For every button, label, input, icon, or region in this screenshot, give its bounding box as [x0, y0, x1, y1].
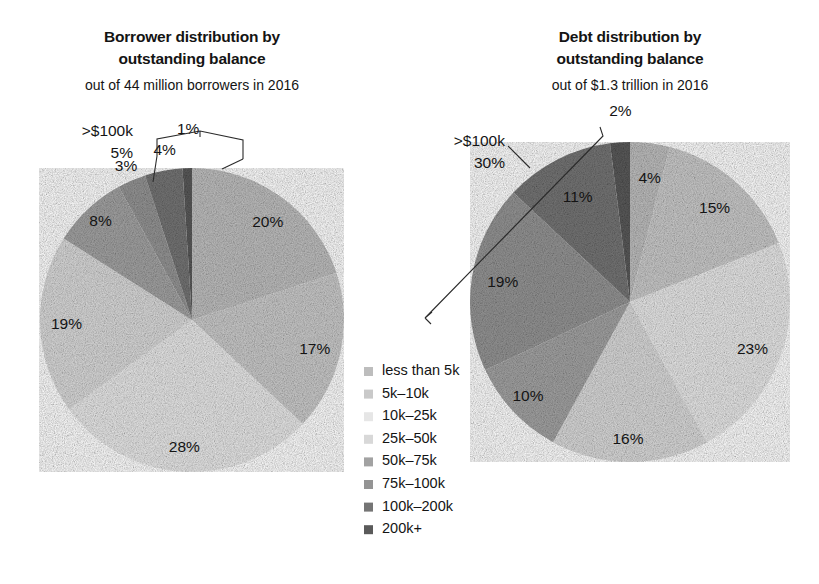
annotation-label-right-line1: >$100k [454, 132, 506, 149]
legend-label-2: 10k–25k [382, 407, 438, 423]
legend-label-4: 50k–75k [382, 452, 438, 468]
legend-swatch-4 [364, 457, 373, 466]
legend-label-6: 100k–200k [382, 498, 454, 514]
pie-value-label-borrower-distribution-4: 8% [89, 212, 112, 229]
pie-charts-figure: Borrower distribution byoutstanding bala… [0, 0, 819, 584]
legend-swatch-3 [364, 435, 373, 444]
annotation-leader-right-a [508, 146, 530, 168]
pie-chart-borrower-distribution: Borrower distribution byoutstanding bala… [40, 28, 344, 472]
legend-swatch-6 [364, 503, 373, 512]
legend: less than 5k5k–10k10k–25k25k–50k50k–75k7… [364, 362, 460, 536]
pie-value-label-borrower-distribution-0: 20% [252, 213, 283, 230]
pie-value-label-debt-distribution-1: 15% [699, 199, 730, 216]
pie-value-label-borrower-distribution-3: 19% [51, 315, 82, 332]
pie-chart-debt-distribution: Debt distribution byoutstanding balanceo… [470, 28, 790, 462]
chart-title-line2-borrower-distribution: outstanding balance [119, 50, 266, 67]
figure-svg: Borrower distribution byoutstanding bala… [0, 0, 819, 584]
annotation-leader-left-b [222, 159, 243, 169]
legend-swatch-5 [364, 480, 373, 489]
pie-value-label-debt-distribution-0: 4% [638, 169, 661, 186]
legend-swatch-2 [364, 412, 373, 421]
legend-swatch-1 [364, 390, 373, 399]
pie-slices-borrower-distribution [40, 168, 344, 472]
annotation-label-right-line2: 30% [474, 154, 505, 171]
annotation-label-left-line1: >$100k [82, 122, 134, 139]
pie-value-label-debt-distribution-4: 10% [513, 387, 544, 404]
pie-value-label-borrower-distribution-1: 17% [299, 340, 330, 357]
pie-slices-debt-distribution [470, 142, 790, 462]
chart-title-line1-debt-distribution: Debt distribution by [559, 28, 702, 45]
pie-value-label-debt-distribution-6: 11% [563, 188, 593, 205]
legend-label-0: less than 5k [382, 362, 460, 378]
legend-label-7: 200k+ [382, 520, 422, 536]
pie-value-label-debt-distribution-5: 19% [487, 273, 518, 290]
legend-label-3: 25k–50k [382, 430, 438, 446]
legend-label-1: 5k–10k [382, 385, 430, 401]
annotation-label-left-line2: 5% [111, 144, 134, 161]
chart-title-line2-debt-distribution: outstanding balance [557, 50, 704, 67]
pie-value-label-debt-distribution-7: 2% [609, 102, 632, 119]
pie-value-label-borrower-distribution-2: 28% [169, 438, 200, 455]
chart-subtitle-borrower-distribution: out of 44 million borrowers in 2016 [85, 77, 299, 93]
chart-subtitle-debt-distribution: out of $1.3 trillion in 2016 [552, 77, 709, 93]
pie-value-label-debt-distribution-3: 16% [612, 430, 643, 447]
legend-label-5: 75k–100k [382, 475, 446, 491]
pie-value-label-debt-distribution-2: 23% [737, 340, 768, 357]
chart-title-line1-borrower-distribution: Borrower distribution by [104, 28, 281, 45]
legend-swatch-7 [364, 525, 373, 534]
legend-swatch-0 [364, 367, 373, 376]
